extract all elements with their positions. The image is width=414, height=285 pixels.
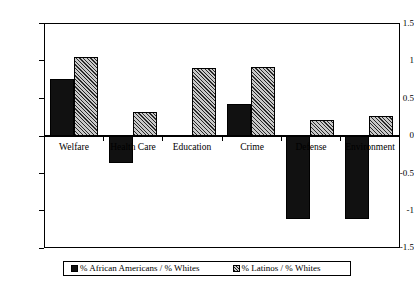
legend-entry-series2: % Latinos / % Whites <box>233 264 321 273</box>
bar-environment-series2 <box>369 116 393 136</box>
hatched-square-icon <box>233 265 240 272</box>
zero-axis-line <box>44 135 400 137</box>
y-axis-tick <box>39 98 44 99</box>
x-axis-tick <box>222 137 223 141</box>
x-axis-category-education: Education <box>162 142 222 153</box>
bar-education-series2 <box>192 68 216 136</box>
legend-label-series1: % African Americans / % Whites <box>80 264 200 273</box>
x-axis-category-crime: Crime <box>222 142 282 153</box>
x-axis-tick <box>103 137 104 141</box>
y-axis-tick <box>39 210 44 211</box>
bar-welfare-series1 <box>50 79 74 136</box>
y-axis-label-5: -0.5 <box>378 169 414 178</box>
y-axis-label-7: -1.5 <box>378 243 414 252</box>
chart-legend: % African Americans / % Whites % Latinos… <box>63 261 351 276</box>
x-axis-category-health-care: Health Care <box>103 142 163 153</box>
y-axis-label-2: 1 <box>378 56 414 65</box>
bar-health-care-series2 <box>133 112 157 136</box>
black-square-icon <box>71 265 78 272</box>
bar-crime-series1 <box>227 104 251 136</box>
bar-chart: 1.5 1 0.5 0 -0.5 -1 -1.5 Welfare Health … <box>0 0 414 285</box>
y-axis-label-6: -1 <box>378 206 414 215</box>
legend-entry-series1: % African Americans / % Whites <box>71 264 200 273</box>
y-axis-tick <box>39 173 44 174</box>
legend-label-series2: % Latinos / % Whites <box>242 264 321 273</box>
y-axis-label-3: 0.5 <box>378 94 414 103</box>
x-axis-category-welfare: Welfare <box>44 142 104 153</box>
x-axis-category-environment: Environment <box>338 142 402 153</box>
y-axis-tick <box>39 60 44 61</box>
x-axis-tick <box>162 137 163 141</box>
x-axis-tick <box>281 137 282 141</box>
y-axis-tick <box>39 248 44 249</box>
x-axis-category-defense: Defense <box>281 142 341 153</box>
bar-welfare-series2 <box>74 57 98 136</box>
bar-crime-series2 <box>251 67 275 136</box>
x-axis-tick <box>340 137 341 141</box>
y-axis-tick <box>39 23 44 24</box>
bar-defense-series2 <box>310 120 334 136</box>
y-axis-label-1: 1.5 <box>378 19 414 28</box>
